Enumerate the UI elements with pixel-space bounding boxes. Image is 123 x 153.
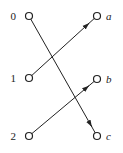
node-a: [94, 13, 101, 20]
edge-2-to-b: [32, 81, 95, 134]
node-label-1: 1: [11, 72, 17, 84]
arrowhead-icon: [91, 125, 92, 127]
node-1: [26, 75, 33, 82]
node-0: [26, 13, 33, 20]
node-label-b: b: [106, 73, 112, 85]
edge-1-to-a: [32, 18, 95, 75]
node-b: [94, 76, 101, 83]
node-2: [26, 133, 33, 140]
node-label-0: 0: [11, 10, 17, 22]
node-label-a: a: [106, 10, 112, 22]
mapping-diagram: 012abc: [0, 0, 123, 153]
node-c: [94, 133, 101, 140]
node-label-c: c: [106, 130, 111, 142]
arrowhead-icon: [87, 86, 89, 87]
edge-0-to-c: [31, 19, 96, 133]
node-label-2: 2: [11, 130, 17, 142]
arrowhead-icon: [88, 23, 89, 24]
edges-group: [31, 18, 96, 133]
